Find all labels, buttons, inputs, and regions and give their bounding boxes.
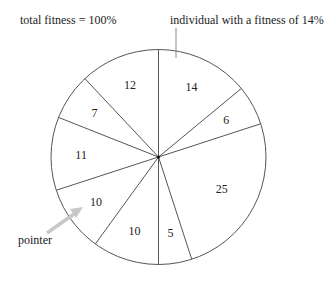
individual-fitness-annotation: individual with a fitness of 14% <box>170 13 324 28</box>
slice-divider <box>59 117 159 157</box>
slice-label: 6 <box>223 113 229 127</box>
slice-label: 5 <box>168 226 174 240</box>
slice-label: 7 <box>91 106 97 120</box>
slice-label: 11 <box>75 148 87 162</box>
slice-divider <box>95 157 158 244</box>
pointer-arrow-shaft <box>47 214 74 233</box>
slice-divider <box>159 124 261 157</box>
slice-label: 10 <box>129 224 141 238</box>
slice-label: 10 <box>90 195 102 209</box>
slice-label: 12 <box>124 78 136 92</box>
total-fitness-label: total fitness = 100% <box>20 13 116 28</box>
slice-divider <box>159 157 192 259</box>
slice-label: 14 <box>185 80 197 94</box>
slice-divider <box>56 157 158 190</box>
pointer-label: pointer <box>18 233 52 248</box>
wheel-center <box>157 155 160 158</box>
slice-label: 25 <box>216 182 228 196</box>
